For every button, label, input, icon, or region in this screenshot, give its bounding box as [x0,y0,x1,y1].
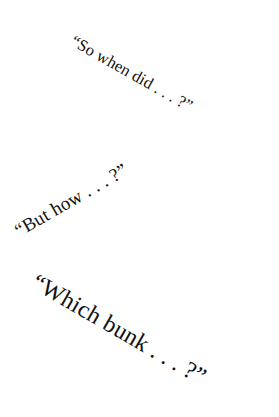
quote-line-2: “But how . . . ?” [11,160,130,240]
quote-line-1: “So when did . . . ?” [68,33,195,115]
page-canvas: “So when did . . . ?” “But how . . . ?” … [0,0,279,417]
quote-line-3: “Which bunk . . . ?” [28,270,210,389]
